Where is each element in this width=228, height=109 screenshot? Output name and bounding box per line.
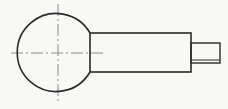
shaft: [90, 33, 191, 72]
drawing-canvas: [0, 0, 228, 109]
technical-drawing: [0, 0, 228, 109]
